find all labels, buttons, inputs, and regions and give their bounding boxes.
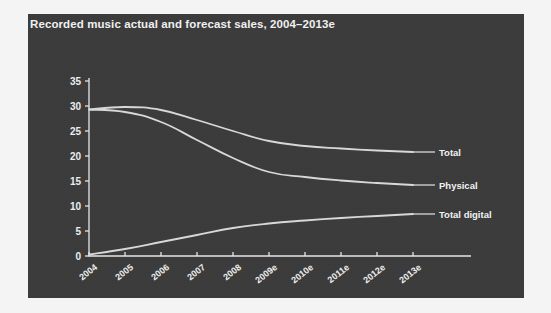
chart-figure: Recorded music actual and forecast sales… — [0, 0, 551, 313]
y-axis-tick-label: 15 — [55, 176, 81, 187]
series-label-total-digital: Total digital — [439, 209, 492, 220]
axes-group — [85, 78, 471, 256]
series-label-physical: Physical — [439, 180, 478, 191]
axis-lines — [89, 78, 471, 256]
y-axis-tick-label: 10 — [55, 201, 81, 212]
y-axis-tick-label: 35 — [55, 76, 81, 87]
y-axis-tick-label: 5 — [55, 226, 81, 237]
series-line-total-digital — [89, 214, 413, 255]
leader-lines-group — [413, 152, 435, 214]
y-axis-tick-label: 0 — [55, 251, 81, 262]
y-axis-tick-label: 20 — [55, 151, 81, 162]
series-group — [89, 107, 413, 255]
series-label-total: Total — [439, 147, 461, 158]
y-axis-tick-label: 30 — [55, 101, 81, 112]
y-axis-tick-label: 25 — [55, 126, 81, 137]
series-line-physical — [89, 110, 413, 186]
